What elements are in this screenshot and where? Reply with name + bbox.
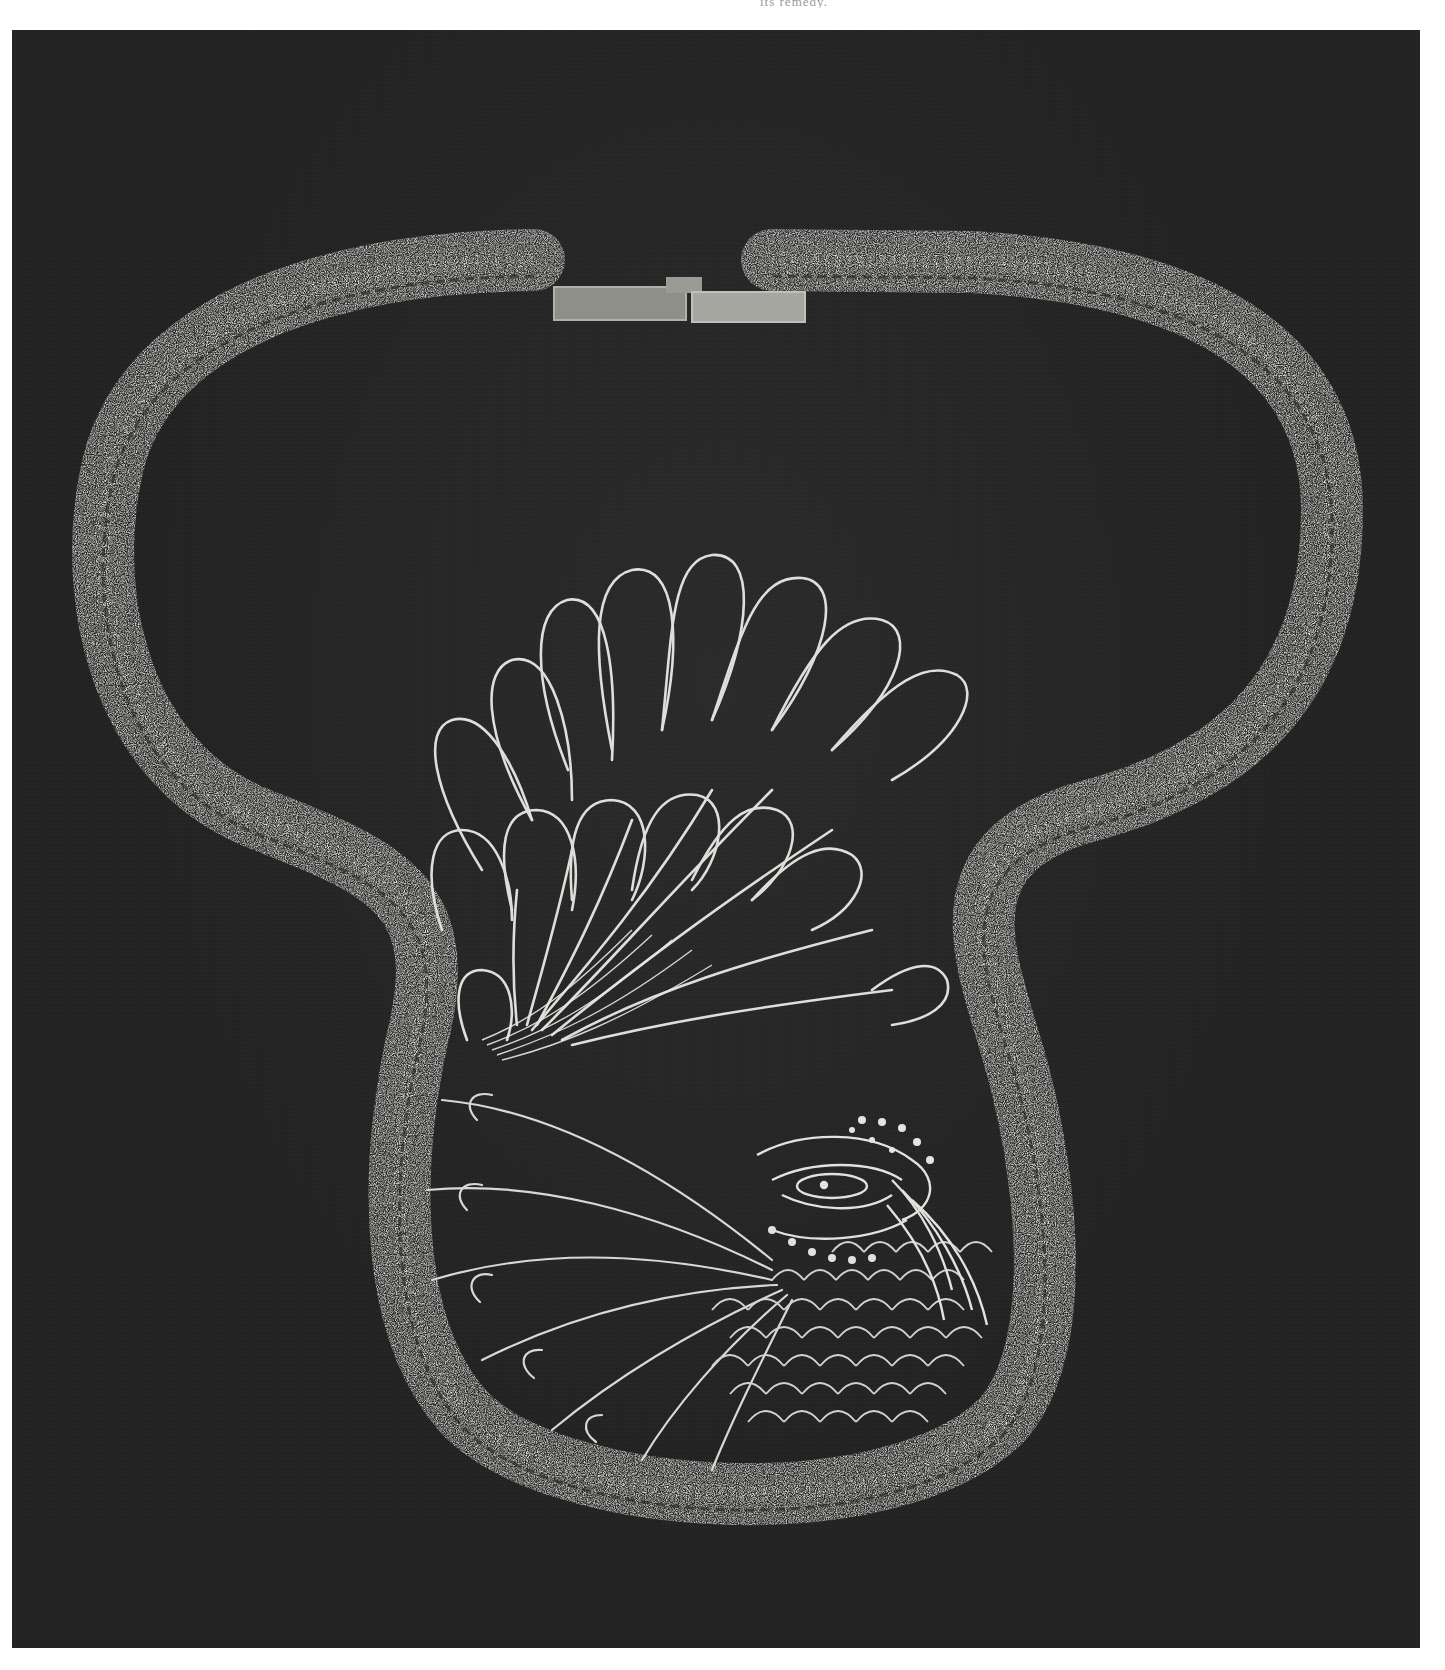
peacock-head [757, 1137, 987, 1325]
necklace-photograph [12, 30, 1420, 1648]
tail-feathers [432, 555, 968, 1045]
bead-dots [768, 1226, 876, 1264]
necklace-illustration [12, 30, 1420, 1648]
knitted-collar [103, 260, 1332, 1510]
top-text-fragment: its remedy. [760, 0, 960, 8]
peacock-eye [797, 1174, 867, 1198]
feather-shafts [482, 930, 712, 1060]
breast-scales [712, 1242, 992, 1422]
